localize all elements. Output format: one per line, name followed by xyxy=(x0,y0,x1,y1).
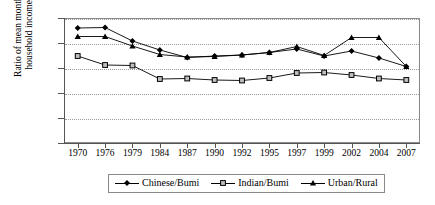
legend-item-triangle[interactable]: Urban/Rural xyxy=(301,177,378,189)
data-point-marker xyxy=(240,78,245,83)
data-point-marker xyxy=(377,76,382,81)
data-point-marker xyxy=(102,25,108,31)
data-point-marker xyxy=(157,77,162,82)
data-point-marker xyxy=(75,54,80,59)
y-axis-title-line1: Ratio of mean monthly xyxy=(13,0,24,93)
square-icon xyxy=(211,178,235,188)
x-axis-tick-label: 2007 xyxy=(389,148,423,159)
legend-item-diamond[interactable]: Chinese/Bumi xyxy=(115,177,199,189)
data-point-marker xyxy=(310,180,316,186)
legend-label: Urban/Rural xyxy=(328,177,378,189)
data-point-marker xyxy=(404,78,409,83)
data-point-marker xyxy=(349,48,355,54)
legend-item-square[interactable]: Indian/Bumi xyxy=(211,177,289,189)
data-point-marker xyxy=(322,70,327,75)
y-axis-title-line2: household incomes xyxy=(24,0,35,93)
diamond-icon xyxy=(115,178,139,188)
data-series-layer xyxy=(64,18,420,143)
data-point-marker xyxy=(130,63,135,68)
data-point-marker xyxy=(349,73,354,78)
data-point-marker xyxy=(103,63,108,68)
data-point-marker xyxy=(212,78,217,83)
data-point-marker xyxy=(75,25,81,31)
chart-figure: Ratio of mean monthly household incomes … xyxy=(0,0,435,205)
data-point-marker xyxy=(294,71,299,76)
chart-legend: Chinese/BumiIndian/BumiUrban/Rural xyxy=(108,174,385,193)
data-point-marker xyxy=(221,181,226,186)
legend-label: Chinese/Bumi xyxy=(142,177,199,189)
series-diamond xyxy=(75,25,410,70)
triangle-icon xyxy=(301,178,325,188)
data-point-marker xyxy=(185,76,190,81)
data-point-marker xyxy=(267,76,272,81)
series-line xyxy=(78,56,407,81)
data-point-marker xyxy=(376,55,382,61)
series-triangle xyxy=(75,33,410,69)
series-line xyxy=(78,28,407,67)
series-line xyxy=(78,37,407,67)
y-axis-title: Ratio of mean monthly household incomes xyxy=(19,0,33,93)
data-point-marker xyxy=(294,43,300,49)
data-point-marker xyxy=(124,180,130,186)
legend-label: Indian/Bumi xyxy=(238,177,289,189)
